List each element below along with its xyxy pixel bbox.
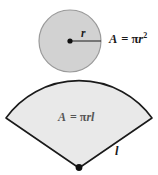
sector-area-symbol-rl: rl bbox=[86, 110, 94, 124]
circle-area-equals: = bbox=[121, 32, 128, 46]
slant-height-label: l bbox=[115, 145, 118, 158]
sector-area-equals: = bbox=[70, 110, 77, 124]
figure-canvas bbox=[0, 0, 158, 175]
radius-label: r bbox=[81, 28, 85, 40]
circle-center-point bbox=[67, 38, 72, 43]
sector-area-symbol-A: A bbox=[58, 110, 66, 124]
cone-lateral-sector-shape bbox=[6, 81, 152, 168]
circle-area-symbol-A: A bbox=[109, 32, 117, 46]
sector-area-label: A=πrl bbox=[58, 111, 94, 123]
circle-area-label: A=πr2 bbox=[109, 33, 147, 46]
geometry-figure: A=πr2 r A=πrl l bbox=[0, 0, 158, 175]
sector-apex-point bbox=[76, 164, 83, 171]
circle-area-exponent: 2 bbox=[143, 31, 147, 40]
